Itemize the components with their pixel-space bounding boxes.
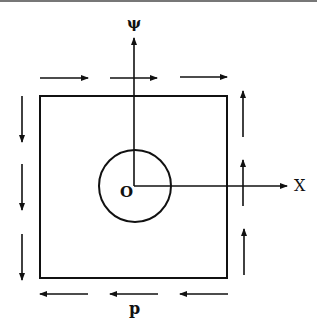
- origin-label: O: [120, 183, 133, 201]
- psi-axis-label: ψ: [127, 14, 141, 32]
- x-axis-label: X: [294, 176, 305, 195]
- shear-plate-diagram: [0, 0, 317, 326]
- shear-load-label: p: [129, 299, 140, 318]
- right-shear-arrows: [243, 91, 244, 275]
